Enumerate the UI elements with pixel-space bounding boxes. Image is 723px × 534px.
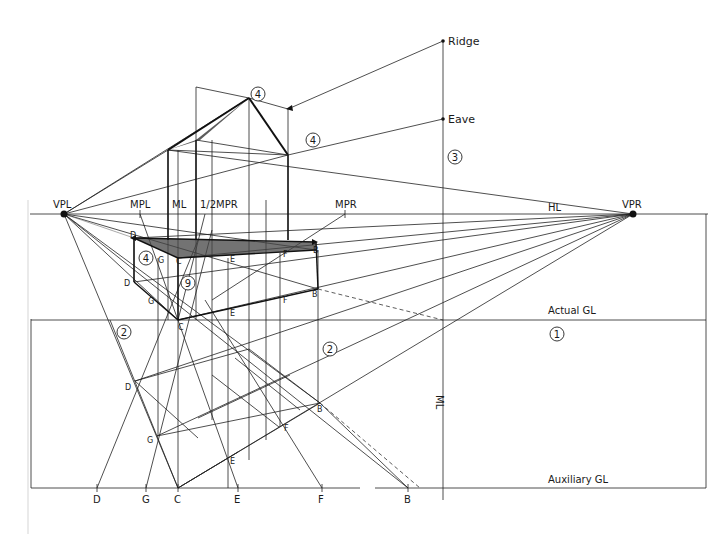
label-vpr: VPR <box>622 199 642 210</box>
step-marker-4c: 4 <box>139 251 153 265</box>
step-marker-4b: 4 <box>306 133 320 147</box>
plan-label-b: B <box>317 405 323 414</box>
aux-label-d: D <box>93 494 101 505</box>
plan-label-g: G <box>147 436 153 445</box>
perspective-diagram: VPL VPR MPL ML 1/2MPR MPR HL Ridge Eave … <box>0 0 723 534</box>
aux-label-e: E <box>234 494 240 505</box>
step-marker-3: 3 <box>448 150 462 164</box>
step-markers: 1 2 2 3 4 4 4 9 <box>117 87 564 356</box>
aux-label-b: B <box>404 494 411 505</box>
box-top-label-g: G <box>158 256 164 265</box>
svg-text:4: 4 <box>143 253 149 264</box>
label-mpr: MPR <box>335 199 357 210</box>
vanishing-point-vpl <box>61 211 68 218</box>
box-ground-label-c: C <box>178 323 184 332</box>
label-ml: ML <box>172 199 187 210</box>
label-actual-gl: Actual GL <box>548 305 596 316</box>
box-top-label-b: B <box>313 246 319 255</box>
label-hl: HL <box>548 202 562 213</box>
aux-label-g: G <box>142 494 150 505</box>
svg-text:1: 1 <box>554 329 560 340</box>
arrows <box>130 105 318 245</box>
house-outline <box>168 98 288 240</box>
step-marker-1: 1 <box>550 327 564 341</box>
dashed-lines <box>318 289 443 488</box>
box-top-label-f: F <box>283 250 288 259</box>
step-marker-2b: 2 <box>323 342 337 356</box>
box-ground-label-f: F <box>283 296 288 305</box>
vertical-measuring-line <box>441 39 445 500</box>
box-ground-label-b: B <box>312 290 318 299</box>
step-marker-4a: 4 <box>251 87 265 101</box>
box-top-label-d: D <box>130 231 136 240</box>
box-ground-label-g: G <box>148 297 154 306</box>
aux-label-f: F <box>318 494 324 505</box>
label-mpl: MPL <box>130 199 151 210</box>
aux-label-c: C <box>174 494 181 505</box>
step-marker-9: 9 <box>181 276 195 290</box>
vanishing-point-vpr <box>630 211 637 218</box>
label-ridge: Ridge <box>448 35 480 48</box>
vpl-construction-lines <box>64 98 408 488</box>
label-half-mpr: 1/2MPR <box>200 199 238 210</box>
box-ground-label-d: D <box>124 279 130 288</box>
box-outline <box>134 238 318 320</box>
svg-text:4: 4 <box>255 89 261 100</box>
plan-label-f: F <box>284 424 289 433</box>
plan-label-e: E <box>230 457 235 466</box>
box-top-label-c: C <box>176 257 182 266</box>
labels: VPL VPR MPL ML 1/2MPR MPR HL Ridge Eave … <box>53 35 642 505</box>
box-ground-label-e: E <box>230 309 235 318</box>
label-vertical-ml: ML <box>434 395 445 410</box>
svg-text:9: 9 <box>185 278 191 289</box>
box-top-label-e: E <box>230 255 235 264</box>
label-auxiliary-gl: Auxiliary GL <box>548 474 609 485</box>
svg-text:4: 4 <box>310 135 316 146</box>
label-vpl: VPL <box>53 199 72 210</box>
plan-grid <box>135 349 320 488</box>
label-eave: Eave <box>448 113 475 126</box>
svg-text:2: 2 <box>327 344 333 355</box>
svg-text:2: 2 <box>121 327 127 338</box>
step-marker-2a: 2 <box>117 325 131 339</box>
svg-text:3: 3 <box>452 152 458 163</box>
plan-label-d: D <box>125 383 131 392</box>
